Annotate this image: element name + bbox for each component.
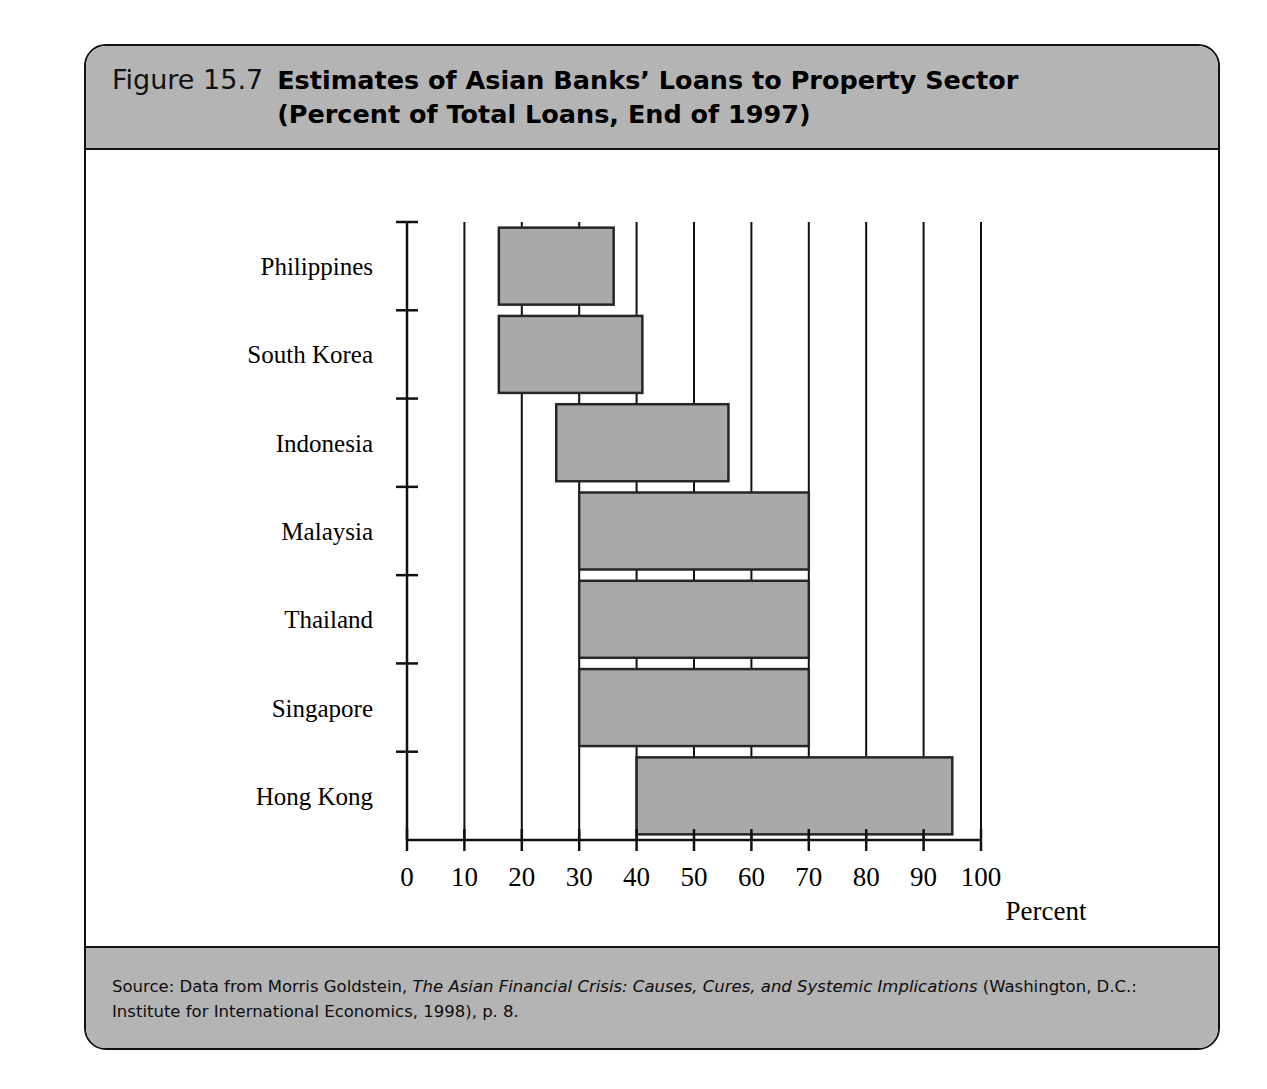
figure-header-band: Figure 15.7 Estimates of Asian Banks’ Lo… bbox=[86, 46, 1218, 150]
bar-hong-kong bbox=[637, 757, 953, 834]
x-tick-label-90: 90 bbox=[910, 862, 937, 892]
x-tick-label-60: 60 bbox=[738, 862, 765, 892]
bar-chart-svg: PhilippinesSouth KoreaIndonesiaMalaysiaT… bbox=[86, 150, 1218, 946]
x-tick-label-30: 30 bbox=[566, 862, 593, 892]
bar-indonesia bbox=[556, 404, 728, 481]
x-tick-label-20: 20 bbox=[508, 862, 535, 892]
figure-title: Estimates of Asian Banks’ Loans to Prope… bbox=[277, 63, 1018, 131]
x-tick-label-100: 100 bbox=[961, 862, 1002, 892]
bar-south-korea bbox=[499, 316, 642, 393]
x-tick-labels: 0102030405060708090100 bbox=[400, 862, 1001, 892]
x-tick-label-70: 70 bbox=[795, 862, 822, 892]
figure-title-line-1: Estimates of Asian Banks’ Loans to Prope… bbox=[277, 63, 1018, 97]
category-label-singapore: Singapore bbox=[272, 695, 373, 722]
category-label-indonesia: Indonesia bbox=[276, 430, 373, 457]
figure-frame: Figure 15.7 Estimates of Asian Banks’ Lo… bbox=[84, 44, 1220, 1050]
x-tick-label-0: 0 bbox=[400, 862, 414, 892]
x-tick-label-50: 50 bbox=[681, 862, 708, 892]
x-axis-title: Percent bbox=[1006, 896, 1087, 926]
bars bbox=[499, 228, 952, 835]
category-label-thailand: Thailand bbox=[284, 606, 373, 633]
figure-header-text: Figure 15.7 Estimates of Asian Banks’ Lo… bbox=[112, 63, 1206, 131]
chart-plot-area: PhilippinesSouth KoreaIndonesiaMalaysiaT… bbox=[86, 150, 1218, 946]
bar-thailand bbox=[579, 581, 809, 658]
bar-singapore bbox=[579, 669, 809, 746]
source-book-title: The Asian Financial Crisis: Causes, Cure… bbox=[412, 977, 977, 996]
category-labels: PhilippinesSouth KoreaIndonesiaMalaysiaT… bbox=[247, 253, 373, 810]
category-label-hong-kong: Hong Kong bbox=[256, 783, 374, 810]
figure-title-line-2: (Percent of Total Loans, End of 1997) bbox=[277, 97, 1018, 131]
source-prefix: Source: Data from Morris Goldstein, bbox=[112, 977, 412, 996]
bar-philippines bbox=[499, 228, 614, 305]
figure-number: Figure 15.7 bbox=[112, 63, 277, 97]
x-tick-label-40: 40 bbox=[623, 862, 650, 892]
source-note: Source: Data from Morris Goldstein, The … bbox=[112, 974, 1194, 1024]
y-axis bbox=[396, 222, 418, 840]
x-tick-label-10: 10 bbox=[451, 862, 478, 892]
source-band: Source: Data from Morris Goldstein, The … bbox=[86, 946, 1218, 1048]
bar-malaysia bbox=[579, 493, 809, 570]
category-label-south-korea: South Korea bbox=[247, 341, 373, 368]
category-label-malaysia: Malaysia bbox=[281, 518, 373, 545]
category-label-philippines: Philippines bbox=[260, 253, 373, 280]
x-tick-label-80: 80 bbox=[853, 862, 880, 892]
